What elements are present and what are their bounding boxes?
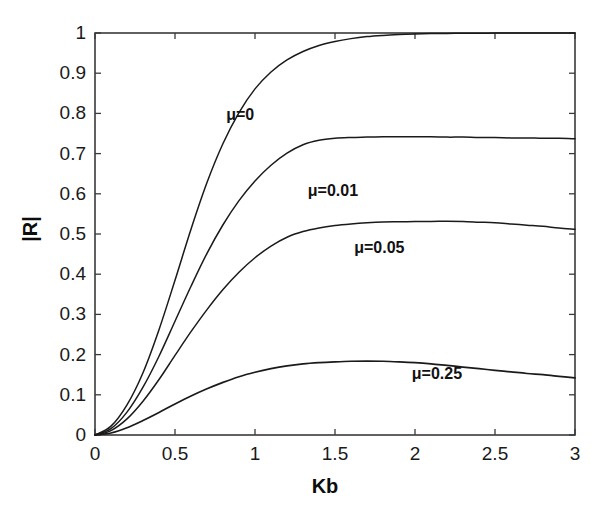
y-tick-label-0: 0 [75,424,86,446]
curve-mu=0.05 [95,221,575,435]
axes-box [95,33,575,435]
x-tick-label-5: 2.5 [482,443,508,465]
axis-ticks [95,33,575,435]
curve-label-mu=0.25: μ=0.25 [412,365,462,383]
y-tick-label-9: 0.9 [60,62,86,84]
chart-figure: 00.10.20.30.40.50.60.70.80.9100.511.522.… [0,0,606,523]
x-tick-label-3: 1.5 [322,443,348,465]
y-tick-label-10: 1 [75,22,86,44]
x-tick-label-1: 0.5 [162,443,188,465]
y-tick-label-7: 0.7 [60,143,86,165]
curve-mu=0 [95,33,575,435]
y-tick-label-4: 0.4 [60,263,86,285]
x-tick-label-4: 2 [410,443,421,465]
y-tick-label-2: 0.2 [60,344,86,366]
y-tick-label-5: 0.5 [60,223,86,245]
data-curves [95,33,575,435]
curve-label-mu=0: μ=0 [226,106,254,124]
axes-group [95,33,575,435]
curve-label-mu=0.01: μ=0.01 [308,182,358,200]
y-tick-label-8: 0.8 [60,102,86,124]
y-tick-label-6: 0.6 [60,183,86,205]
x-tick-label-0: 0 [90,443,101,465]
curve-mu=0.25 [95,361,575,435]
y-tick-label-3: 0.3 [60,303,86,325]
x-axis-title: Kb [312,475,339,498]
y-tick-label-1: 0.1 [60,384,86,406]
y-axis-title: |R| [19,216,42,242]
x-tick-label-2: 1 [250,443,261,465]
curve-label-mu=0.05: μ=0.05 [354,239,404,257]
x-tick-label-6: 3 [570,443,581,465]
